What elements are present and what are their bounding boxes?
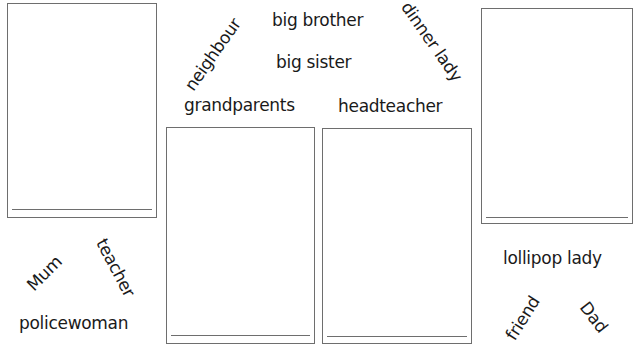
- drawing-box-3: [322, 128, 472, 344]
- word-neighbour: neighbour: [182, 15, 244, 93]
- writing-line: [171, 335, 310, 336]
- word-big-sister: big sister: [276, 54, 351, 71]
- writing-line: [486, 217, 628, 218]
- word-mum: Mum: [24, 253, 65, 294]
- drawing-box-4: [481, 8, 633, 224]
- word-friend: friend: [503, 293, 543, 343]
- word-dinner-lady: dinner lady: [398, 0, 465, 85]
- word-dad: Dad: [577, 299, 611, 336]
- writing-line: [12, 209, 152, 210]
- word-policewoman: policewoman: [19, 315, 128, 332]
- word-grandparents: grandparents: [184, 97, 295, 114]
- drawing-box-1: [7, 3, 157, 218]
- drawing-box-2: [166, 127, 315, 344]
- word-lollipop-lady: lollipop lady: [503, 250, 602, 267]
- word-headteacher: headteacher: [338, 98, 442, 115]
- word-big-brother: big brother: [272, 12, 363, 29]
- word-teacher: teacher: [93, 236, 138, 300]
- writing-line: [327, 336, 467, 337]
